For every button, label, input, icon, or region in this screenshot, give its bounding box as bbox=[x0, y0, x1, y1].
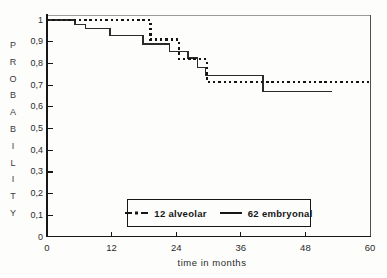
y-tick-label: 0,5 bbox=[9, 123, 43, 134]
y-tick-marks bbox=[48, 20, 53, 215]
x-tick-label: 24 bbox=[163, 242, 189, 253]
y-tick-label: 0,7 bbox=[9, 80, 43, 91]
x-tick-label: 48 bbox=[292, 242, 318, 253]
embryonal-solid-line-marker-icon bbox=[220, 209, 243, 217]
y-tick-label: 0,3 bbox=[9, 166, 43, 177]
x-tick-label: 0 bbox=[34, 242, 60, 253]
x-tick-label: 60 bbox=[357, 242, 383, 253]
y-tick-label: 0,6 bbox=[9, 101, 43, 112]
y-tick-label: 0,1 bbox=[9, 210, 43, 221]
legend-item-embryonal: 62 embryonal bbox=[220, 208, 313, 219]
x-tick-label: 36 bbox=[228, 242, 254, 253]
legend-box: 12 alveolar 62 embryonal bbox=[127, 199, 311, 227]
alveolar-dash-dot-marker-icon bbox=[125, 209, 149, 217]
y-tick-label: 0 bbox=[9, 232, 43, 243]
y-tick-label: 1 bbox=[9, 15, 43, 26]
km-survival-figure: P R O B A B I L I T Y time in months 12 … bbox=[0, 0, 387, 278]
plot-area bbox=[0, 0, 387, 278]
legend-label-alveolar: 12 alveolar bbox=[154, 208, 206, 219]
y-tick-label: 0,4 bbox=[9, 145, 43, 156]
y-tick-label: 0,8 bbox=[9, 58, 43, 69]
x-axis-title: time in months bbox=[152, 257, 272, 268]
legend-item-alveolar: 12 alveolar bbox=[125, 208, 206, 219]
y-tick-label: 0,2 bbox=[9, 188, 43, 199]
y-tick-label: 0,9 bbox=[9, 36, 43, 47]
legend-label-embryonal: 62 embryonal bbox=[248, 208, 313, 219]
y-axis-title-letter: B bbox=[10, 91, 16, 100]
x-tick-label: 12 bbox=[99, 242, 125, 253]
